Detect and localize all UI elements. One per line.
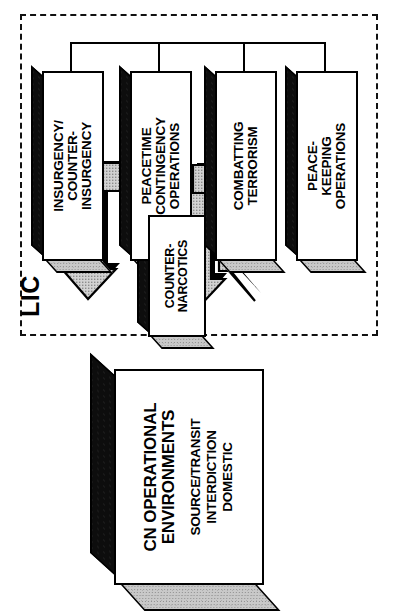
box-peacetime-title: PEACETIME CONTINGENCY OPERATIONS: [140, 117, 183, 215]
box-cn-operational-environments-items: SOURCE/TRANSIT INTERDICTION DOMESTIC: [188, 418, 236, 535]
box-cn-operational-environments-title: CN OPERATIONAL ENVIRONMENTS: [142, 403, 178, 552]
box-insurgency-face[interactable]: INSURGENCY/ COUNTER- INSURGENCY: [42, 71, 104, 261]
lic-label: LIC: [18, 275, 43, 317]
box-combatting-terrorism-title: COMBATTING TERRORISM: [232, 122, 261, 211]
box-peacekeeping[interactable]: PEACE- KEEPING OPERATIONS: [296, 71, 358, 261]
box-combatting-terrorism[interactable]: COMBATTING TERRORISM: [215, 71, 277, 261]
box-combatting-terrorism-face[interactable]: COMBATTING TERRORISM: [215, 71, 277, 261]
box-cn-operational-environments-top: [90, 353, 117, 577]
box-insurgency-title: INSURGENCY/ COUNTER- INSURGENCY: [52, 120, 95, 212]
box-peacekeeping-face[interactable]: PEACE- KEEPING OPERATIONS: [296, 71, 358, 261]
box-counter-narcotics-face[interactable]: COUNTER- NARCOTICS: [148, 215, 206, 337]
box-cn-operational-environments-side: [117, 581, 280, 611]
box-insurgency[interactable]: INSURGENCY/ COUNTER- INSURGENCY: [42, 71, 104, 261]
box-cn-operational-environments-face[interactable]: CN OPERATIONAL ENVIRONMENTS SOURCE/TRANS…: [114, 369, 264, 585]
box-peacekeeping-title: PEACE- KEEPING OPERATIONS: [306, 123, 349, 209]
box-counter-narcotics[interactable]: COUNTER- NARCOTICS: [148, 215, 206, 337]
box-counter-narcotics-title: COUNTER- NARCOTICS: [164, 240, 191, 313]
box-cn-operational-environments[interactable]: CN OPERATIONAL ENVIRONMENTS SOURCE/TRANS…: [114, 369, 264, 585]
connector-spine: [70, 42, 326, 44]
